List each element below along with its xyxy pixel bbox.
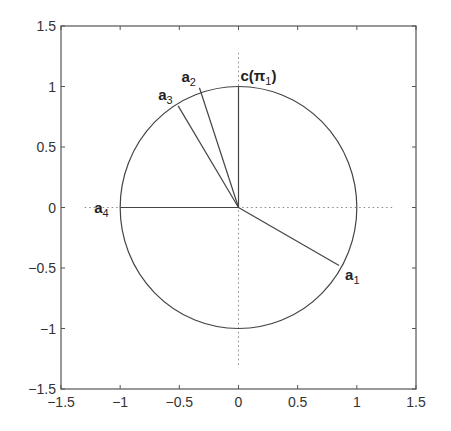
x-tick-label: 1.5 [406, 394, 426, 410]
label-c: c(π1) [241, 67, 277, 87]
y-tick-label: −0.5 [28, 260, 56, 276]
y-tick-label: 1 [48, 79, 56, 95]
y-tick-label: 0 [48, 200, 56, 216]
x-tick-label: 1 [353, 394, 361, 410]
label-a1: a1 [345, 266, 359, 286]
x-tick-label: −1 [112, 394, 128, 410]
plot-area: a1a2a3a4c(π1)−1.5−1−0.500.511.51.510.50−… [28, 18, 426, 410]
label-a3: a3 [158, 86, 172, 106]
chart-canvas: a1a2a3a4c(π1)−1.5−1−0.500.511.51.510.50−… [0, 0, 451, 431]
x-tick-label: 0.5 [288, 394, 308, 410]
vector-a2 [199, 88, 238, 208]
vector-a1 [239, 208, 340, 266]
label-a2: a2 [181, 68, 195, 88]
vector-a3 [178, 106, 238, 208]
y-tick-label: 0.5 [37, 139, 57, 155]
x-tick-label: 0 [235, 394, 243, 410]
x-tick-label: −0.5 [166, 394, 194, 410]
y-tick-label: −1.5 [28, 381, 56, 397]
label-a4: a4 [94, 199, 108, 219]
y-tick-label: −1 [40, 321, 56, 337]
y-tick-label: 1.5 [37, 18, 57, 34]
